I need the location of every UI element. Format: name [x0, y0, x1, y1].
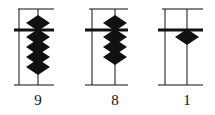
rod-label-3: 1 [172, 92, 202, 109]
rod-label-1: 9 [23, 92, 53, 109]
rod-label-2: 8 [100, 92, 130, 109]
lower-bead-1-4 [26, 59, 50, 75]
lower-bead-2-3 [103, 49, 127, 65]
